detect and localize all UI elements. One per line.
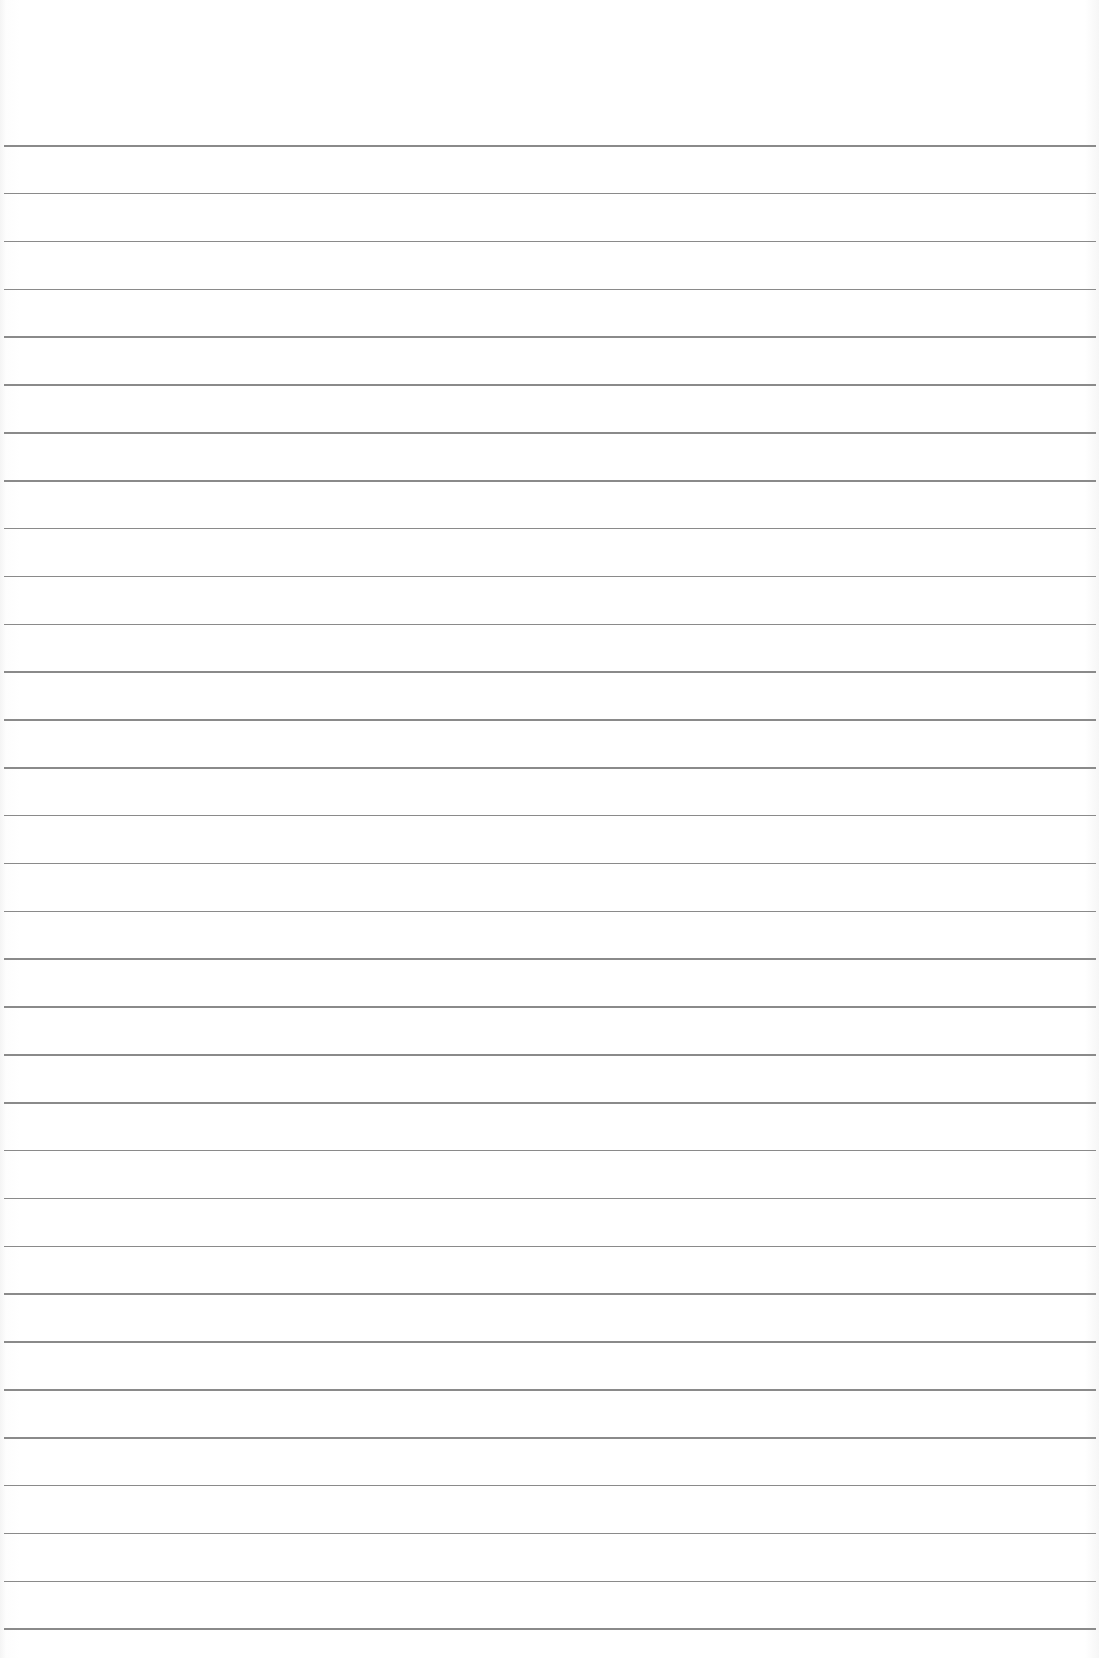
ruled-line <box>4 1485 1096 1487</box>
ruled-line <box>4 1054 1096 1056</box>
ruled-line <box>4 815 1096 817</box>
ruled-line <box>4 1437 1096 1439</box>
ruled-line <box>4 145 1096 147</box>
ruled-line <box>4 1389 1096 1391</box>
ruled-line <box>4 1581 1096 1583</box>
lined-paper-sheet <box>0 0 1099 1658</box>
ruled-line <box>4 576 1096 578</box>
ruled-line <box>4 719 1096 721</box>
ruled-line <box>4 289 1096 291</box>
ruled-line <box>4 336 1096 338</box>
ruled-line <box>4 432 1096 434</box>
ruled-line <box>4 1006 1096 1008</box>
ruled-line <box>4 528 1096 530</box>
ruled-line <box>4 1293 1096 1295</box>
ruled-line <box>4 671 1096 673</box>
ruled-line <box>4 1341 1096 1343</box>
ruled-line <box>4 624 1096 626</box>
ruled-line <box>4 241 1096 243</box>
ruled-line <box>4 480 1096 482</box>
ruled-line <box>4 1628 1096 1630</box>
ruled-line <box>4 958 1096 960</box>
ruled-line <box>4 1533 1096 1535</box>
ruled-line <box>4 863 1096 865</box>
ruled-line <box>4 1246 1096 1248</box>
ruled-line <box>4 1198 1096 1200</box>
ruled-line <box>4 1150 1096 1152</box>
ruled-line <box>4 1102 1096 1104</box>
ruled-line <box>4 193 1096 195</box>
ruled-line <box>4 911 1096 913</box>
ruled-line <box>4 767 1096 769</box>
ruled-line <box>4 384 1096 386</box>
